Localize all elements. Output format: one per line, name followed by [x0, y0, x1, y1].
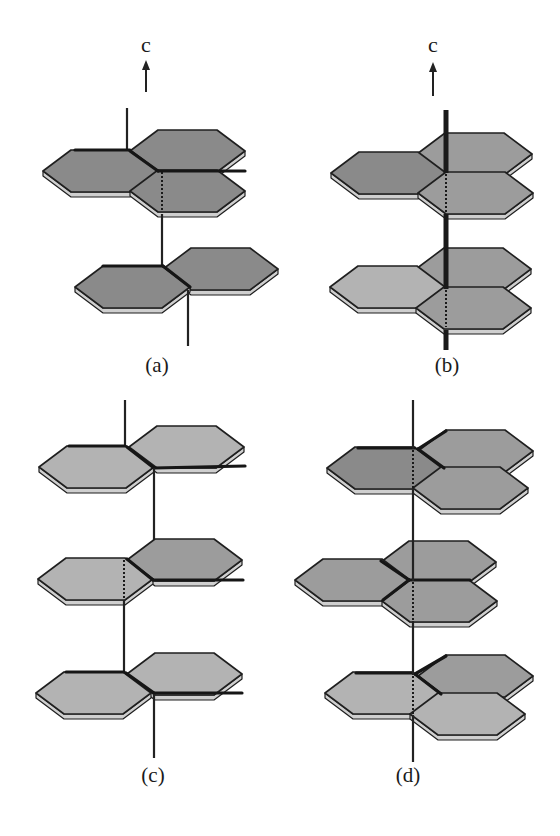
panel-c: (c)	[36, 400, 245, 787]
layer-a-top	[43, 130, 245, 217]
layer-a-bottom	[75, 248, 278, 313]
layer-c-middle	[38, 539, 243, 605]
layer-b-top	[331, 133, 533, 219]
layer-d-bottom	[325, 655, 533, 740]
c-axis-arrow-icon	[142, 60, 150, 92]
panel-label-a: (a)	[145, 353, 168, 377]
stacking-diagram: c (a) c	[0, 0, 560, 836]
layer-c-bottom	[36, 653, 242, 719]
layer-c-top	[39, 426, 245, 493]
layer-d-top	[327, 430, 533, 514]
c-axis-label-a: c	[141, 32, 151, 57]
panel-label-b: (b)	[435, 353, 460, 377]
layer-d-middle	[295, 541, 497, 627]
panel-label-c: (c)	[141, 763, 164, 787]
panel-d: (d)	[295, 400, 533, 787]
layer-b-bottom	[330, 248, 531, 334]
c-axis-arrow-icon	[429, 62, 437, 96]
panel-label-d: (d)	[396, 763, 421, 787]
panel-a: c (a)	[43, 32, 278, 377]
panel-b: c (b)	[330, 32, 533, 377]
c-axis-label-b: c	[428, 32, 438, 57]
